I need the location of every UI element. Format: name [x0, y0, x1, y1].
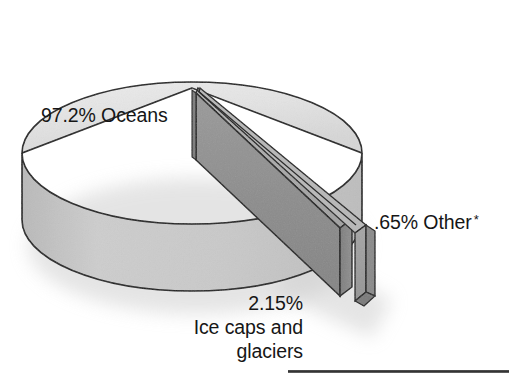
pie-label-oceans: 97.2% Oceans [41, 104, 168, 127]
footnote-asterisk: * [472, 212, 479, 227]
pie-label-ice-caps-and-glaciers: 2.15% Ice caps and glaciers [128, 291, 303, 363]
pie-label-other-text: .65% Other [374, 211, 472, 233]
footnote-table-top-rule [288, 370, 509, 373]
pie-label-other: .65% Other* [374, 208, 479, 234]
pie-label-icecaps-value: 2.15% [128, 291, 303, 315]
pie-label-icecaps-name-line2: glaciers [128, 339, 303, 363]
chart-figure: 97.2% Oceans .65% Other* 2.15% Ice caps … [0, 0, 509, 384]
pie-label-icecaps-name-line1: Ice caps and [128, 315, 303, 339]
